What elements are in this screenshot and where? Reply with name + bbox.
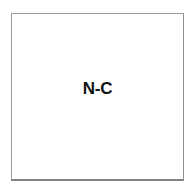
- diagram-canvas: N-C: [0, 0, 192, 192]
- node-label-text: N-C: [83, 80, 113, 97]
- node-label: N-C: [12, 14, 183, 179]
- node-box[interactable]: N-C: [11, 13, 184, 181]
